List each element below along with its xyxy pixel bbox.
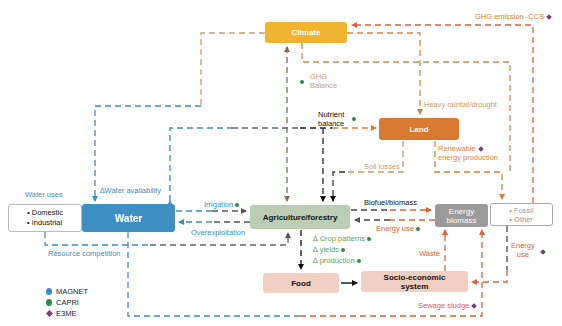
capri-circle-icon xyxy=(46,299,52,306)
waste-label: Waste xyxy=(419,249,440,258)
resource-competition-label: Resource competition xyxy=(48,249,121,258)
biofuel-biomass-label: Biofuel/biomass xyxy=(364,198,417,207)
water-label: Water xyxy=(115,214,142,223)
water-use-industrial: • Industrial xyxy=(27,218,63,228)
energy-fossil: • Fossil xyxy=(509,206,533,215)
e3me-diamond-icon xyxy=(546,14,552,20)
e3me-diamond-icon xyxy=(471,303,477,309)
overexploitation-label: Overexploitation xyxy=(191,228,245,237)
climate-label: Climate xyxy=(292,28,321,37)
capri-dot-icon xyxy=(416,227,420,231)
e3me-diamond-icon xyxy=(478,146,484,152)
renewable-energy-label: Renewable energy production xyxy=(438,144,498,162)
legend-item-magnet: MAGNET xyxy=(46,287,88,296)
ghg-balance-label: GHG Balance xyxy=(298,72,337,90)
yields-label: ∆ yields xyxy=(313,245,345,254)
energy-use-agri-label: Energy use xyxy=(376,224,420,233)
crop-patterns-label: ∆ Crop patterns xyxy=(313,234,371,243)
magnet-circle-icon xyxy=(46,288,52,295)
fossil-other-node: • Fossil • Other xyxy=(490,203,553,226)
land-node: Land xyxy=(379,118,459,140)
soil-losses-label: Soil losses xyxy=(364,162,400,171)
capri-dot-icon xyxy=(235,203,239,207)
diagram-canvas: Climate Land • Domestic • Industrial Wat… xyxy=(0,0,562,326)
capri-dot-icon xyxy=(357,259,361,263)
legend-item-e3me: E3ME xyxy=(46,309,76,318)
water-node: Water xyxy=(82,204,175,232)
legend-item-capri: CAPRI xyxy=(46,298,79,307)
land-label: Land xyxy=(409,125,428,134)
heavy-rainfall-label: Heavy rainfall/drought xyxy=(424,100,497,109)
capri-dot-icon xyxy=(367,237,371,241)
energy-biomass-label: Energy biomass xyxy=(435,207,488,225)
agriculture-forestry-node: Agriculture/forestry xyxy=(250,205,350,229)
energy-other: • Other xyxy=(509,215,533,224)
agriculture-label: Agriculture/forestry xyxy=(263,213,338,222)
water-uses-label: Water uses xyxy=(25,190,63,199)
water-uses-node: • Domestic • Industrial xyxy=(8,204,82,232)
sewage-sludge-label: Sewage sludge xyxy=(418,301,476,310)
climate-node: Climate xyxy=(265,22,347,43)
socio-economic-node: Socio-economic system xyxy=(361,271,468,292)
irrigation-label: Irrigation xyxy=(204,200,239,209)
water-use-domestic: • Domestic xyxy=(27,208,63,218)
food-node: Food xyxy=(263,273,339,293)
energy-use-fossil-label: Energy use xyxy=(511,241,535,259)
production-label: ∆ production xyxy=(313,256,361,265)
capri-dot-icon xyxy=(352,117,356,121)
capri-dot-icon xyxy=(341,248,345,252)
food-label: Food xyxy=(291,279,311,288)
ghg-emission-label: GHG emission -CCS xyxy=(475,12,551,21)
energy-biomass-node: Energy biomass xyxy=(435,204,488,227)
socio-economic-label: Socio-economic system xyxy=(380,273,450,291)
water-availability-label: ∆Water availability xyxy=(100,186,161,195)
nutrient-balance-label: Nutrient balance xyxy=(318,110,344,128)
e3me-diamond-icon xyxy=(46,310,53,317)
capri-dot-icon xyxy=(300,80,304,84)
